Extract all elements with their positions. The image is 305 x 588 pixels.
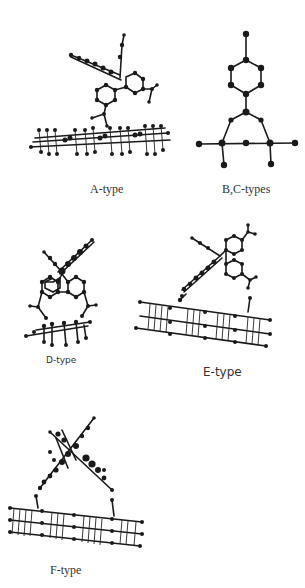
panel-d-type xyxy=(20,230,105,350)
label-f-type: F-type xyxy=(50,563,81,578)
bc-types-structure-diagram xyxy=(195,25,300,175)
e-type-structure-diagram xyxy=(130,222,275,347)
f-type-structure-diagram xyxy=(2,410,150,550)
label-bc-types: B,C-types xyxy=(222,182,270,197)
label-e-type: E-type xyxy=(203,365,242,379)
label-a-type: A-type xyxy=(90,182,123,197)
panel-e-type xyxy=(130,222,275,347)
a-molecule xyxy=(69,33,159,128)
d-type-structure-diagram xyxy=(20,230,105,350)
panel-f-type xyxy=(2,410,150,550)
panel-a-type xyxy=(25,30,170,165)
e-surface-lattice xyxy=(134,294,272,348)
label-d-type: D-type xyxy=(46,355,76,365)
a-surface-slab xyxy=(29,124,170,156)
a-type-structure-diagram xyxy=(25,30,170,165)
panel-bc-types xyxy=(195,25,300,175)
